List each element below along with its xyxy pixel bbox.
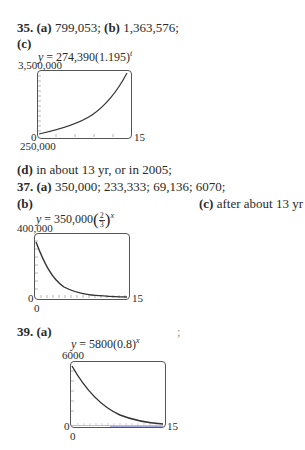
graph-xmin-label: 0 [70, 430, 76, 442]
graph-xmin-label: 250,000 [20, 140, 56, 152]
part-label: (a) [37, 179, 52, 194]
problem-number: 39. [17, 324, 33, 339]
answer-value: 350,000; 233,333; 69,136; 6070; [55, 179, 225, 194]
problem-35-part-d: (d) in about 13 yr, or in 2005; [17, 163, 172, 177]
part-label: (a) [37, 20, 52, 35]
part-label: (b) [104, 20, 120, 35]
part-label: (a) [37, 324, 52, 339]
graph-xmax-label: 15 [134, 131, 145, 143]
problem-number: 37. [17, 179, 33, 194]
answer-value: 1,363,576; [123, 20, 179, 35]
problem-37-line-a: 37. (a) 350,000; 233,333; 69,136; 6070; [17, 180, 225, 194]
part-label: (d) [17, 162, 33, 177]
problem-39-line-a: 39. (a) [17, 325, 52, 339]
graph-xmax-label: 15 [167, 420, 178, 432]
part-label: (c) [17, 37, 31, 51]
part-label: (b) [17, 197, 33, 211]
graph-ymin-label: 0 [64, 420, 70, 432]
graph-ymax-label: 6000 [62, 349, 84, 361]
answer-value: 799,053; [55, 20, 101, 35]
problem-35-line-a-b: 35. (a) 799,053; (b) 1,363,576; [17, 21, 179, 35]
graph-curve-37 [34, 233, 130, 300]
separator: ; [177, 325, 181, 339]
answer-value: in about 13 yr, or in 2005; [36, 162, 172, 177]
part-label: (c) [199, 196, 213, 211]
graph-curve-39 [70, 361, 166, 428]
problem-37-part-c: (c) after about 13 yr [199, 197, 303, 211]
graph-xmin-label: 0 [34, 302, 40, 314]
graph-ymin-label: 0 [28, 292, 34, 304]
problem-number: 35. [17, 20, 33, 35]
graph-curve-35 [37, 70, 132, 139]
answer-value: after about 13 yr [217, 196, 303, 211]
graph-xmax-label: 15 [132, 292, 143, 304]
